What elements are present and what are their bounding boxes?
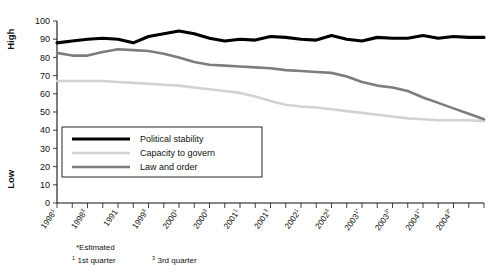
- y-tick-label: 50: [40, 107, 50, 117]
- x-tick-label-superscript: 3: [140, 207, 147, 213]
- chart-container: 0102030405060708090100 HighLow 199811998…: [0, 0, 496, 280]
- legend-label-2: Law and order: [140, 162, 198, 172]
- y-tick-label: 90: [40, 34, 50, 44]
- x-tick-label-superscript: 3*: [383, 207, 391, 215]
- x-tick-label-group: 19983: [69, 207, 90, 230]
- x-tick-label-superscript: 1: [293, 207, 300, 213]
- footnote-superscript-1: 1: [72, 255, 75, 261]
- legend-label-0: Political stability: [140, 134, 204, 144]
- axis-label-high: High: [5, 28, 16, 49]
- footnote-text-3: 3rd quarter: [158, 256, 197, 265]
- chart-legend: Political stabilityCapacity to governLaw…: [62, 127, 262, 177]
- footnote-first-quarter: 11st quarter: [72, 255, 116, 265]
- x-tick-label: 20001: [160, 207, 181, 230]
- line-chart: 0102030405060708090100 HighLow 199811998…: [0, 0, 496, 280]
- x-tick-label-group: 20031*: [342, 207, 364, 233]
- y-tick-label: 20: [40, 162, 50, 172]
- x-tick-label: 1991: [102, 208, 120, 228]
- y-tick-label: 100: [35, 16, 50, 26]
- x-tick-label: 20031*: [342, 207, 364, 233]
- x-tick-label: 19993: [130, 207, 151, 230]
- footnote-third-quarter: 33rd quarter: [152, 255, 197, 265]
- footnote-superscript-3: 3: [152, 255, 155, 261]
- footnote-text-1: 1st quarter: [78, 256, 117, 265]
- x-tick-label-superscript: 1: [171, 207, 178, 213]
- x-tick-label: 20021: [282, 207, 303, 230]
- y-tick-label: 40: [40, 125, 50, 135]
- y-tick-label: 10: [40, 180, 50, 190]
- x-axis: [57, 203, 484, 208]
- y-axis-extreme-labels: HighLow: [5, 28, 16, 188]
- x-tick-label-group: 19993: [130, 207, 151, 230]
- x-tick-label-group: 20003: [191, 207, 212, 230]
- axis-label-low: Low: [5, 169, 16, 189]
- legend-label-1: Capacity to govern: [140, 148, 215, 158]
- y-axis: 0102030405060708090100: [35, 16, 57, 208]
- x-tick-label-group: 20041*: [403, 207, 425, 233]
- y-tick-label: 30: [40, 144, 50, 154]
- x-tick-label-superscript: 3: [262, 207, 269, 213]
- x-tick-label-group: 20011: [221, 207, 242, 230]
- x-tick-label: 20011: [221, 207, 242, 230]
- x-tick-label-superscript: 1: [49, 207, 56, 213]
- series-lines: [57, 31, 484, 121]
- x-tick-label-superscript: 3: [323, 207, 330, 213]
- y-tick-label: 80: [40, 53, 50, 63]
- x-tick-label: 19981: [38, 207, 59, 230]
- x-tick-label-superscript: 3: [201, 207, 208, 213]
- x-tick-label: 20043*: [433, 207, 455, 233]
- footnote-estimated: *Estimated: [76, 243, 115, 252]
- y-tick-label: 60: [40, 89, 50, 99]
- x-tick-label-group: 20013: [252, 207, 273, 230]
- x-tick-label: 20033*: [372, 207, 394, 233]
- x-tick-label-group: 20023: [313, 207, 334, 230]
- x-tick-label: 19983: [69, 207, 90, 230]
- y-tick-label: 70: [40, 71, 50, 81]
- x-tick-label: 20023: [313, 207, 334, 230]
- x-tick-label-superscript: 3*: [444, 207, 452, 215]
- series-line-law-and-order: [57, 49, 484, 119]
- x-tick-label-group: 20033*: [372, 207, 394, 233]
- x-axis-tick-labels: 1998119983199119993200012000320011200132…: [38, 207, 456, 233]
- x-tick-label-group: 19981: [38, 207, 59, 230]
- x-tick-label-group: 1991: [102, 208, 120, 228]
- series-line-political-stability: [57, 31, 484, 43]
- x-tick-label: 20041*: [403, 207, 425, 233]
- x-tick-label-group: 20043*: [433, 207, 455, 233]
- series-line-capacity-to-govern: [57, 81, 484, 121]
- x-tick-label: 20003: [191, 207, 212, 230]
- x-tick-label-group: 20021: [282, 207, 303, 230]
- x-tick-label-superscript: 1*: [352, 207, 360, 215]
- x-tick-label-superscript: 3: [79, 207, 86, 213]
- chart-footnotes: *Estimated11st quarter33rd quarter: [72, 243, 197, 265]
- x-tick-label-superscript: 1: [232, 207, 239, 213]
- y-tick-label: 0: [45, 198, 50, 208]
- x-tick-label-group: 20001: [160, 207, 181, 230]
- x-tick-label-superscript: 1*: [413, 207, 421, 215]
- x-tick-label: 20013: [252, 207, 273, 230]
